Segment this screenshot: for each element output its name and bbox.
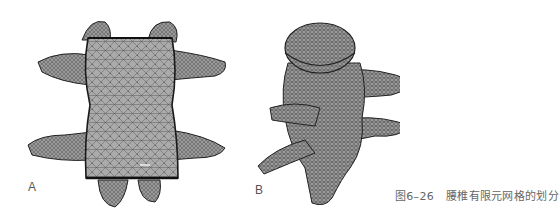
vertebra-mesh-image-b: [250, 8, 400, 213]
panel-label-a: A: [28, 180, 36, 194]
panel-b-vertebra-oblique: B: [250, 8, 400, 213]
panel-label-b: B: [255, 183, 263, 197]
figure-caption-text: 腰椎有限元网格的划分: [446, 190, 559, 203]
vertebra-mesh-image-a: [20, 10, 240, 210]
figure-number: 图6–26: [395, 190, 434, 203]
figure-caption: 图6–26腰椎有限元网格的划分: [395, 187, 559, 203]
panel-a-vertebra-anterior: A: [20, 10, 240, 210]
